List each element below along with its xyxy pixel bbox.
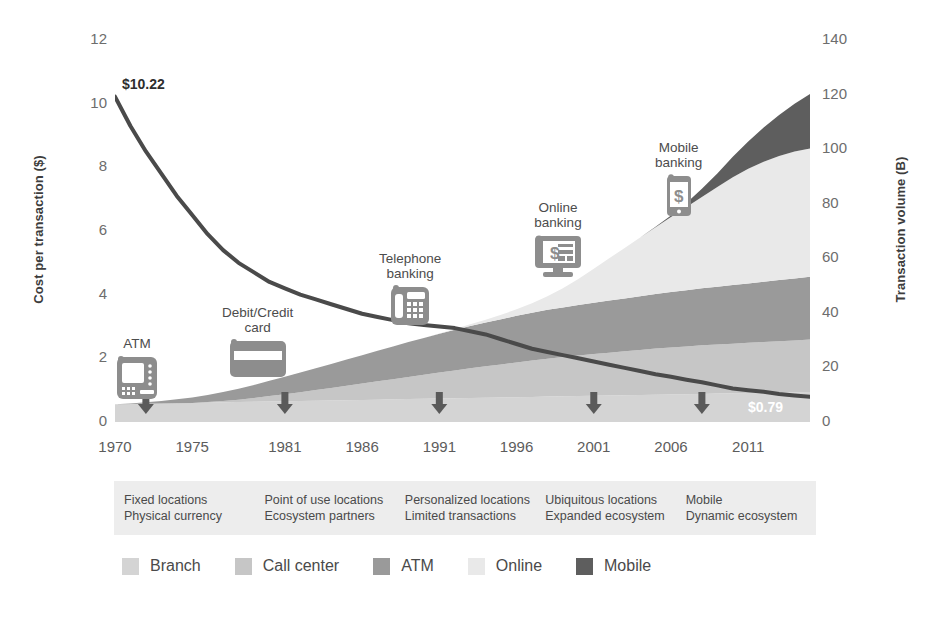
legend-label: Call center (263, 557, 339, 575)
legend-item-mobile[interactable]: Mobile (576, 557, 651, 575)
descriptor-column-1: Fixed locationsPhysical currency (114, 492, 254, 524)
desk-phone-icon (379, 283, 441, 330)
legend-label: Branch (150, 557, 201, 575)
descriptor-line2: Physical currency (124, 508, 254, 524)
legend-item-atm[interactable]: ATM (373, 557, 434, 575)
callout-atm: ATM (113, 336, 161, 408)
descriptor-strip: Fixed locationsPhysical currencyPoint of… (114, 481, 816, 535)
callout-online: Onlinebanking $ (530, 200, 586, 283)
y-tick-left-10: 10 (67, 94, 107, 111)
y-tick-right-140: 140 (822, 30, 862, 47)
legend-swatch-icon (235, 558, 252, 575)
callout-label-online: Onlinebanking (530, 200, 586, 230)
legend-label: Online (496, 557, 542, 575)
x-tick-1986: 1986 (332, 438, 392, 455)
legend-label: ATM (401, 557, 434, 575)
y-tick-right-80: 80 (822, 194, 862, 211)
end-value-label: $0.79 (748, 399, 783, 415)
start-value-label: $10.22 (122, 76, 165, 92)
legend-swatch-icon (576, 558, 593, 575)
descriptor-line1: Point of use locations (264, 492, 394, 508)
y-tick-right-120: 120 (822, 85, 862, 102)
descriptor-line2: Dynamic ecosystem (686, 508, 816, 524)
descriptor-line1: Fixed locations (124, 492, 254, 508)
callout-label-atm: ATM (113, 336, 161, 351)
descriptor-line1: Ubiquitous locations (545, 492, 675, 508)
callout-label-card: Debit/Creditcard (222, 305, 293, 335)
legend-label: Mobile (604, 557, 651, 575)
smartphone-icon: $ (655, 172, 702, 221)
y-tick-left-12: 12 (67, 30, 107, 47)
y-tick-left-4: 4 (67, 285, 107, 302)
svg-text:$: $ (674, 187, 684, 206)
legend-swatch-icon (468, 558, 485, 575)
y-tick-right-100: 100 (822, 139, 862, 156)
callout-label-mobile: Mobilebanking (655, 140, 702, 170)
x-tick-1991: 1991 (409, 438, 469, 455)
descriptor-column-5: MobileDynamic ecosystem (676, 492, 816, 524)
callout-mobile: Mobilebanking $ (655, 140, 702, 221)
desktop-monitor-icon: $ (530, 232, 586, 283)
y-axis-title-left: Cost per transaction ($) (31, 130, 46, 330)
descriptor-line2: Ecosystem partners (264, 508, 394, 524)
y-tick-left-8: 8 (67, 157, 107, 174)
y-tick-left-2: 2 (67, 348, 107, 365)
descriptor-line1: Personalized locations (405, 492, 535, 508)
legend-item-online[interactable]: Online (468, 557, 542, 575)
y-tick-right-20: 20 (822, 357, 862, 374)
legend-swatch-icon (373, 558, 390, 575)
stacked-areas (115, 94, 810, 422)
descriptor-line2: Limited transactions (405, 508, 535, 524)
y-tick-right-40: 40 (822, 303, 862, 320)
y-tick-right-0: 0 (822, 412, 862, 429)
descriptor-column-3: Personalized locationsLimited transactio… (395, 492, 535, 524)
credit-card-icon (222, 337, 293, 382)
legend-item-branch[interactable]: Branch (122, 557, 201, 575)
chart-root: Cost per transaction ($) Transaction vol… (0, 0, 936, 622)
x-tick-1981: 1981 (255, 438, 315, 455)
descriptor-line2: Expanded ecosystem (545, 508, 675, 524)
x-tick-1975: 1975 (162, 438, 222, 455)
callout-telephone: Telephonebanking (379, 251, 441, 330)
y-tick-left-6: 6 (67, 221, 107, 238)
chart-canvas (115, 40, 810, 422)
y-tick-left-0: 0 (67, 412, 107, 429)
x-tick-2011: 2011 (718, 438, 778, 455)
x-tick-2001: 2001 (564, 438, 624, 455)
chart-legend: BranchCall centerATMOnlineMobile (122, 552, 722, 580)
y-tick-right-60: 60 (822, 248, 862, 265)
plot-area (115, 40, 810, 422)
legend-swatch-icon (122, 558, 139, 575)
y-axis-title-right: Transaction volume (B) (893, 130, 908, 330)
legend-item-call-center[interactable]: Call center (235, 557, 339, 575)
callout-label-telephone: Telephonebanking (379, 251, 441, 281)
descriptor-column-2: Point of use locationsEcosystem partners (254, 492, 394, 524)
descriptor-column-4: Ubiquitous locationsExpanded ecosystem (535, 492, 675, 524)
x-tick-2006: 2006 (641, 438, 701, 455)
callout-card: Debit/Creditcard (222, 305, 293, 382)
x-tick-1996: 1996 (487, 438, 547, 455)
x-tick-1970: 1970 (85, 438, 145, 455)
descriptor-line1: Mobile (686, 492, 816, 508)
atm-machine-icon (113, 353, 161, 408)
